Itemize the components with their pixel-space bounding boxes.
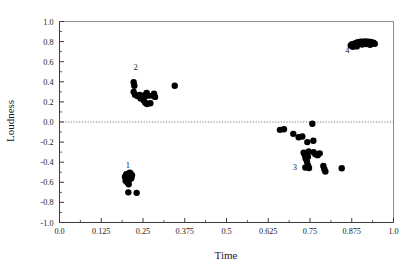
series-3 (277, 121, 345, 175)
y-tick-label: -0.6 (41, 178, 54, 187)
data-point (302, 164, 308, 170)
data-point (304, 139, 310, 145)
data-point (152, 94, 158, 100)
cluster-label-1: 1 (126, 160, 130, 170)
x-tick-label: 0.0 (54, 227, 64, 236)
cluster-label-2: 2 (134, 62, 138, 72)
y-tick-label: 0.0 (43, 118, 53, 127)
data-point (147, 100, 153, 106)
x-tick-label: 0.75 (303, 227, 317, 236)
scatter-plot-figure: 0.00.1250.250.3750.50.6250.750.8751.0 -1… (0, 0, 415, 267)
data-points (122, 38, 378, 196)
y-tick-label: -0.4 (41, 158, 54, 167)
x-tick-label: 1.0 (388, 227, 398, 236)
cluster-label-3: 3 (293, 162, 297, 172)
data-point (172, 83, 178, 89)
data-point (309, 121, 315, 127)
x-tick-label: 0.125 (92, 227, 110, 236)
y-tick-label: -0.8 (41, 198, 54, 207)
data-point (125, 181, 131, 187)
data-point (125, 189, 131, 195)
x-axis-title: Time (215, 249, 238, 261)
data-point (137, 95, 143, 101)
x-tick-label: 0.25 (136, 227, 150, 236)
x-tick-label: 0.375 (176, 227, 194, 236)
data-point (129, 172, 135, 178)
y-tick-label: 0.4 (43, 78, 53, 87)
x-tick-label: 0.5 (221, 227, 231, 236)
x-tick-label: 0.875 (343, 227, 361, 236)
y-tick-label: 1.0 (43, 18, 53, 27)
y-tick-label: 0.8 (43, 38, 53, 47)
data-point (367, 42, 373, 48)
data-point (131, 83, 137, 89)
y-tick-label: 0.2 (43, 98, 53, 107)
x-axis-tick-labels: 0.00.1250.250.3750.50.6250.750.8751.0 (54, 227, 398, 236)
y-tick-label: 0.6 (43, 58, 53, 67)
plot-canvas: 0.00.1250.250.3750.50.6250.750.8751.0 -1… (0, 0, 415, 267)
y-tick-label: -1.0 (41, 219, 54, 228)
data-point (290, 131, 296, 137)
x-tick-label: 0.625 (259, 227, 277, 236)
data-point (316, 150, 322, 156)
data-point (299, 133, 305, 139)
cluster-label-4: 4 (345, 45, 350, 55)
series-1 (122, 170, 140, 197)
y-axis-ticks (60, 22, 65, 223)
data-point (123, 176, 129, 182)
data-point (133, 190, 139, 196)
y-axis-title: Loudness (4, 100, 16, 142)
series-2 (130, 79, 177, 107)
y-tick-label: -0.2 (41, 138, 54, 147)
data-point (310, 137, 316, 143)
x-axis-ticks (60, 218, 394, 223)
data-point (281, 126, 287, 132)
y-axis-tick-labels: -1.0-0.8-0.6-0.4-0.20.00.20.40.60.81.0 (41, 18, 54, 228)
data-point (322, 168, 328, 174)
data-point (339, 165, 345, 171)
series-4 (348, 38, 378, 50)
